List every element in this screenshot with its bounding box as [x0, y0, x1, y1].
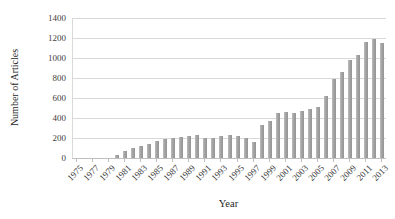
x-tick-1997 — [253, 159, 254, 162]
bar-2004 — [308, 109, 312, 159]
bar-2010 — [356, 55, 360, 159]
x-tick-1987 — [172, 159, 173, 162]
x-tick-1995 — [237, 159, 238, 162]
bar-1985 — [155, 141, 159, 158]
x-tick-1975 — [76, 159, 77, 162]
x-tick-1977 — [92, 159, 93, 162]
bar-2011 — [364, 42, 368, 159]
x-tick-1979 — [108, 159, 109, 162]
y-tick-label-600: 600 — [26, 93, 66, 103]
x-tick-1993 — [220, 159, 221, 162]
bar-1997 — [252, 142, 256, 158]
gridline-1400 — [73, 18, 386, 19]
bar-1986 — [163, 139, 167, 159]
x-tick-1983 — [140, 159, 141, 162]
bar-2012 — [372, 39, 376, 159]
x-axis-title: Year — [72, 198, 385, 209]
bar-1980 — [115, 155, 119, 158]
bar-1982 — [131, 148, 135, 158]
x-tick-1985 — [156, 159, 157, 162]
y-axis-title: Number of Articles — [9, 28, 20, 148]
x-tick-2003 — [301, 159, 302, 162]
x-tick-2011 — [365, 159, 366, 162]
bar-2013 — [380, 43, 384, 158]
bar-2009 — [348, 60, 352, 159]
x-tick-2005 — [317, 159, 318, 162]
plot-area — [72, 18, 386, 159]
bar-2006 — [324, 96, 328, 158]
bar-2001 — [284, 112, 288, 158]
y-tick-label-800: 800 — [26, 73, 66, 83]
x-tick-2007 — [333, 159, 334, 162]
x-tick-1991 — [204, 159, 205, 162]
bar-1996 — [244, 138, 248, 159]
y-tick-label-200: 200 — [26, 133, 66, 143]
y-tick-label-1000: 1000 — [26, 53, 66, 63]
y-tick-label-1400: 1400 — [26, 13, 66, 23]
x-tick-2001 — [285, 159, 286, 162]
bar-2005 — [316, 107, 320, 158]
bar-1999 — [268, 121, 272, 159]
gridline-1000 — [73, 58, 386, 59]
bar-1981 — [123, 151, 127, 158]
bar-1990 — [195, 135, 199, 159]
bar-2008 — [340, 72, 344, 158]
x-tick-2013 — [381, 159, 382, 162]
bar-2007 — [332, 79, 336, 158]
x-tick-1999 — [269, 159, 270, 162]
bar-1998 — [260, 125, 264, 158]
bar-1984 — [147, 144, 151, 159]
x-tick-2009 — [349, 159, 350, 162]
x-tick-1989 — [188, 159, 189, 162]
bar-1987 — [171, 138, 175, 159]
bar-1993 — [219, 136, 223, 158]
bar-2003 — [300, 111, 304, 159]
y-tick-label-400: 400 — [26, 113, 66, 123]
x-tick-1981 — [124, 159, 125, 162]
bar-1983 — [139, 146, 143, 158]
bar-1991 — [203, 138, 207, 159]
bar-1995 — [236, 136, 240, 158]
bar-1988 — [179, 137, 183, 159]
bar-1989 — [187, 136, 191, 159]
y-tick-label-0: 0 — [26, 153, 66, 163]
bar-chart: Number of Articles Year 0200400600800100… — [0, 0, 395, 219]
gridline-1200 — [73, 38, 386, 39]
bar-2002 — [292, 113, 296, 158]
y-tick-label-1200: 1200 — [26, 33, 66, 43]
bar-1994 — [228, 135, 232, 158]
bar-2000 — [276, 113, 280, 158]
bar-1992 — [211, 138, 215, 159]
